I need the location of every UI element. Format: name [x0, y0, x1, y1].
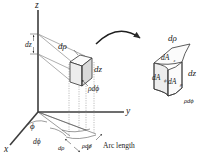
dA-z-sub: z [173, 58, 176, 63]
ray-top-2 [38, 34, 72, 62]
d-phi-label: dϕ [33, 137, 41, 146]
ground-rho-dphi-arrow-a [96, 134, 102, 140]
dA-z-base: dA [161, 53, 170, 62]
main-rho-dphi-label: ρdϕ [87, 84, 99, 93]
ground-rho-dphi-label: ρdϕ [81, 142, 92, 149]
y-axis-label: y [125, 106, 131, 116]
axis-group [10, 10, 124, 145]
main-d-rho-label: dρ [58, 41, 68, 51]
dA-phi-base: dA [152, 73, 161, 82]
main-dz-label: dz [94, 64, 103, 74]
main-volume-element [70, 55, 92, 86]
x-axis-label: x [3, 144, 9, 154]
callout-arrow [96, 31, 140, 44]
detail-rho-dphi-label: ρdϕ [183, 97, 194, 104]
dA-rho-base: dA [168, 77, 177, 86]
radial-line-outer [38, 112, 96, 134]
z-axis-label: z [34, 0, 39, 10]
figure-canvas: z y x dz [0, 0, 214, 156]
ground-plane-group [26, 112, 96, 139]
dz-axis-label: dz [25, 40, 32, 49]
cylindrical-coordinates-figure: z y x dz [0, 0, 214, 156]
phi-label: ϕ [30, 121, 35, 131]
ray-bottom-2 [38, 54, 72, 82]
ground-d-rho-label: dρ [58, 144, 64, 151]
radial-line-inner [38, 112, 70, 136]
arc-length-curve [66, 135, 96, 139]
main-box-front-face [70, 62, 82, 86]
detail-top-face [154, 44, 190, 64]
ground-d-rho-arrow-a [65, 139, 71, 144]
ground-d-rho-arrow-b [74, 147, 80, 152]
d-phi-arc [50, 128, 66, 136]
detail-volume-element [154, 44, 190, 96]
detail-dz-label: dz [188, 68, 197, 78]
arc-length-label: Arc length [103, 141, 135, 150]
detail-d-rho-label: dρ [168, 33, 178, 43]
